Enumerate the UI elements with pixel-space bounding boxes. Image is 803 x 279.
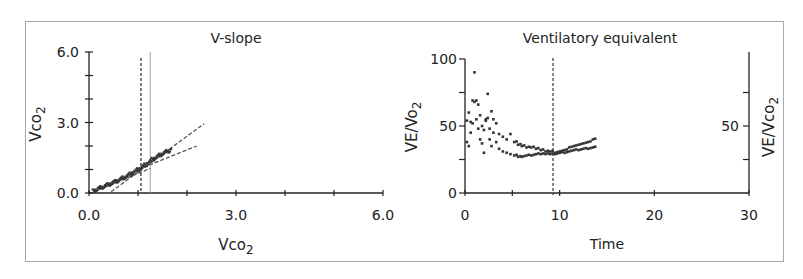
data-point — [469, 131, 472, 134]
data-point — [97, 189, 99, 191]
data-point — [521, 156, 524, 159]
data-point — [488, 127, 491, 130]
data-point — [517, 143, 520, 146]
data-point — [490, 110, 493, 113]
data-point — [513, 154, 516, 157]
data-point — [488, 138, 491, 141]
data-point — [589, 147, 592, 150]
figure-canvas: V-slope 0.03.06.00.03.06.0 Vco2 Vco2 Ven… — [0, 0, 803, 279]
data-point — [565, 151, 568, 154]
v-slope-y-axis-label: Vco2 — [27, 106, 48, 141]
data-point — [505, 152, 508, 155]
data-point — [584, 141, 587, 144]
data-point — [592, 138, 595, 141]
data-point — [126, 175, 128, 177]
data-point — [475, 118, 478, 121]
data-point — [495, 122, 498, 125]
data-point — [535, 153, 538, 156]
x-tick-label: 30 — [740, 207, 758, 223]
data-point — [477, 127, 480, 130]
data-point — [498, 133, 501, 136]
data-point — [481, 125, 484, 128]
data-point — [568, 146, 571, 149]
data-point — [577, 143, 580, 146]
data-point — [483, 152, 486, 155]
data-point — [547, 149, 550, 152]
data-point — [530, 146, 533, 149]
data-point — [490, 145, 493, 148]
y-tick-label: 0.0 — [57, 185, 79, 201]
data-point — [111, 183, 113, 185]
x-tick-label: 10 — [551, 207, 569, 223]
data-point — [589, 140, 592, 143]
data-point — [561, 149, 564, 152]
data-point — [547, 152, 550, 155]
y-tick-label: 6.0 — [57, 44, 79, 60]
data-point — [509, 153, 512, 156]
x-tick-label: 6.0 — [372, 207, 394, 223]
left-y-tick-label: 100 — [430, 51, 457, 67]
data-point — [169, 151, 171, 153]
x-tick-label: 0 — [461, 207, 470, 223]
data-point — [469, 121, 472, 124]
data-point — [563, 152, 566, 155]
v-slope-title: V-slope — [210, 30, 261, 46]
ventilatory-equivalent-tick-labels: 010203005010050 — [430, 51, 758, 223]
data-point — [537, 147, 540, 150]
data-point — [146, 165, 148, 167]
data-point — [479, 114, 482, 117]
data-point — [515, 140, 518, 143]
ve-vco2-axis-label: VE/Vco2 — [760, 97, 781, 157]
data-point — [483, 129, 486, 132]
data-point — [525, 154, 528, 157]
data-point — [502, 135, 505, 138]
data-point — [542, 148, 545, 151]
data-point — [535, 147, 538, 150]
left-y-tick-label: 50 — [439, 118, 457, 134]
data-point — [147, 163, 149, 165]
time-axis-label: Time — [589, 236, 624, 252]
data-point — [513, 141, 516, 144]
left-y-tick-label: 0 — [448, 185, 457, 201]
data-point — [551, 152, 554, 155]
data-point — [502, 150, 505, 153]
data-point — [155, 157, 157, 159]
data-point — [592, 146, 595, 149]
data-point — [148, 161, 150, 163]
data-point — [549, 150, 552, 153]
data-point — [521, 145, 524, 148]
data-point — [498, 147, 501, 150]
data-point — [584, 147, 587, 150]
data-point — [492, 118, 495, 121]
data-point — [133, 171, 135, 173]
data-point — [523, 144, 526, 147]
data-point — [528, 145, 531, 148]
data-point — [539, 149, 542, 152]
ventilatory-equivalent-axes — [459, 52, 749, 196]
data-point — [481, 142, 484, 145]
data-point — [479, 138, 482, 141]
data-point — [549, 153, 552, 156]
data-point — [141, 167, 143, 169]
data-point — [577, 149, 580, 152]
data-point — [163, 153, 165, 155]
data-point — [517, 156, 520, 159]
v-slope-tick-labels: 0.03.06.00.03.06.0 — [57, 44, 394, 223]
v-slope-x-axis-label: Vco2 — [218, 236, 253, 257]
data-point — [570, 149, 573, 152]
data-point — [565, 148, 568, 151]
data-point — [570, 145, 573, 148]
data-point — [587, 147, 590, 150]
data-point — [477, 103, 480, 106]
data-point — [492, 131, 495, 134]
data-point — [473, 71, 476, 74]
data-point — [528, 154, 531, 157]
ve-vo2-axis-label: VE/Vo2 — [403, 102, 424, 153]
data-point — [466, 141, 469, 144]
data-point — [505, 138, 508, 141]
data-point — [509, 133, 512, 136]
ventilatory-equivalent-chart: Ventilatory equivalent 010203005010050 T… — [403, 30, 781, 252]
data-point — [542, 152, 545, 155]
v-slope-plot-area — [92, 52, 204, 193]
data-point — [104, 186, 106, 188]
